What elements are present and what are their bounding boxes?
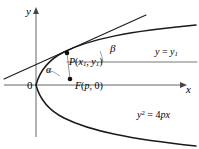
parabola-lower-branch (36, 85, 196, 146)
x-axis-label: x (186, 84, 191, 95)
y-axis-label: y (26, 6, 31, 17)
parabola-equation: y2 = 4px (137, 110, 170, 120)
parabola-equals: = 4 (145, 109, 161, 120)
focus-paren-close: ) (99, 80, 102, 91)
point-p-label: P(x1, y1) (69, 57, 103, 68)
focus-label: F(p, 0) (75, 81, 103, 91)
figure-canvas (0, 0, 199, 149)
horizontal-line-subscript: 1 (175, 50, 178, 57)
horizontal-line-equation: y = y1 (155, 47, 178, 58)
y-axis (33, 7, 39, 137)
focus-marker (68, 77, 73, 82)
horizontal-line-equals: = (159, 46, 170, 57)
beta-angle-label: β (110, 43, 115, 54)
point-p-marker (65, 51, 70, 56)
point-p-paren-close: ) (99, 56, 102, 67)
parabola-x: x (166, 109, 170, 120)
tangent-line (4, 15, 146, 79)
parabola-figure: y x 0 α β P(x1, y1) F(p, 0) y = y1 y2 = … (0, 0, 199, 149)
alpha-angle-label: α (46, 65, 51, 75)
origin-label: 0 (27, 80, 33, 91)
